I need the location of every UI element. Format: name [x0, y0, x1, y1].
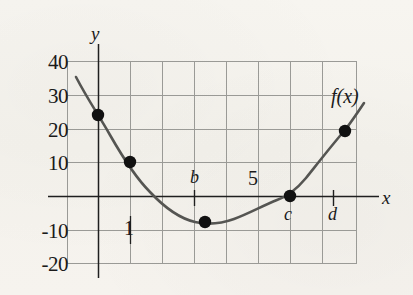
ytick-label-30: 30 [24, 86, 68, 107]
plot-canvas [0, 0, 413, 295]
grid-horizontal-lines [67, 62, 357, 264]
curve-label-fx: f(x) [331, 86, 359, 106]
point-label-b: b [190, 168, 199, 186]
xtick-label-five: 5 [248, 168, 258, 188]
figure-graph-of-f: 40 30 20 10 -10 -20 y x f(x) 1 5 b c d [0, 0, 413, 295]
x-axis-label: x [382, 188, 390, 207]
ytick-label-20: 20 [24, 120, 68, 141]
curve-fx [76, 77, 364, 224]
point-label-c: c [284, 205, 292, 223]
y-axis-label: y [91, 24, 99, 43]
data-point-0 [92, 109, 104, 121]
data-point-1 [124, 156, 136, 168]
data-point-b [199, 216, 211, 228]
ytick-label-40: 40 [24, 52, 68, 73]
point-label-d: d [328, 205, 337, 223]
data-point-c [284, 190, 296, 202]
ytick-label-neg20: -20 [10, 254, 68, 275]
ytick-label-10: 10 [24, 153, 68, 174]
ytick-label-neg10: -10 [10, 221, 68, 242]
xtick-label-one: 1 [124, 218, 134, 238]
data-point-d [339, 125, 351, 137]
